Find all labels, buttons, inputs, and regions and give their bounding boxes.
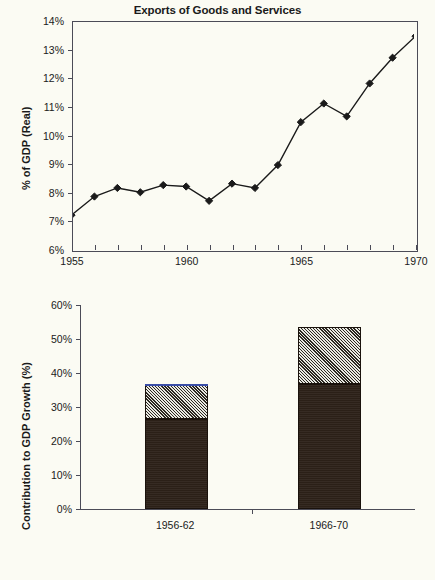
- bar-chart-y-tick-label: 20%: [32, 436, 72, 446]
- line-chart-y-tick-label: 6%: [24, 245, 64, 255]
- bar-segment-exports: [145, 385, 208, 420]
- bar-chart-y-tick-label: 40%: [32, 368, 72, 378]
- line-chart-series: [73, 22, 414, 248]
- line-chart-y-tick-label: 9%: [24, 159, 64, 169]
- line-chart-x-tick-mark: [187, 245, 188, 250]
- stacked-bar: [145, 305, 208, 509]
- bar-chart-y-tick-label: 50%: [32, 334, 72, 344]
- line-chart-figure: Exports of Goods and Services % of GDP (…: [0, 0, 435, 290]
- line-chart-x-tick-label: 1970: [386, 255, 435, 267]
- line-chart-x-tick-mark: [416, 245, 417, 250]
- line-chart-y-axis-label: % of GDP (Real): [20, 106, 32, 190]
- bar-segment-investment: [298, 384, 361, 509]
- stacked-bar: [298, 305, 361, 509]
- line-chart-x-tick-mark: [118, 245, 119, 250]
- line-chart-plot-area: [72, 21, 418, 252]
- bar-chart-axis-divider: [252, 509, 253, 514]
- line-chart-data-point: [114, 184, 121, 191]
- line-chart-x-tick-mark: [210, 245, 211, 250]
- line-chart-y-tick-label: 14%: [24, 16, 64, 26]
- line-chart-x-tick-mark: [72, 245, 73, 250]
- line-chart-x-tick-mark: [278, 245, 279, 250]
- bar-chart-category-label: 1956-62: [115, 519, 235, 531]
- line-chart-x-tick-mark: [233, 245, 234, 250]
- bar-chart-y-tick-label: 30%: [32, 402, 72, 412]
- line-chart-x-tick-mark: [164, 245, 165, 250]
- bar-chart-plot-area: [80, 305, 415, 510]
- bar-segment-investment: [145, 419, 208, 509]
- line-chart-data-point: [137, 189, 144, 196]
- line-chart-x-tick-label: 1965: [271, 255, 331, 267]
- bar-top-accent: [145, 384, 208, 386]
- bar-chart-y-axis-label: Contribution to GDP Growth (%): [20, 362, 32, 530]
- line-chart-path: [73, 36, 414, 215]
- line-chart-data-point: [183, 183, 190, 190]
- bar-chart-figure: Contribution to GDP Growth (%) 60%50%40%…: [0, 290, 435, 580]
- line-chart-y-tick-label: 13%: [24, 45, 64, 55]
- bar-chart-y-tick-label: 60%: [32, 300, 72, 310]
- line-chart-x-tick-mark: [347, 245, 348, 250]
- line-chart-x-tick-mark: [324, 245, 325, 250]
- line-chart-x-tick-mark: [301, 245, 302, 250]
- line-chart-x-tick-mark: [370, 245, 371, 250]
- line-chart-y-tick-label: 12%: [24, 73, 64, 83]
- bar-chart-y-tick-label: 0%: [32, 504, 72, 514]
- bar-chart-category-label: 1966-70: [269, 519, 389, 531]
- line-chart-x-tick-mark: [393, 245, 394, 250]
- page-title: Exports of Goods and Services: [0, 4, 435, 16]
- line-chart-y-tick-label: 10%: [24, 131, 64, 141]
- line-chart-y-tick-label: 11%: [24, 102, 64, 112]
- bar-segment-exports: [298, 327, 361, 384]
- line-chart-x-tick-label: 1955: [42, 255, 102, 267]
- line-chart-x-tick-label: 1960: [157, 255, 217, 267]
- line-chart-x-tick-mark: [255, 245, 256, 250]
- bar-chart-y-tick-label: 10%: [32, 470, 72, 480]
- line-chart-data-point: [160, 181, 167, 188]
- line-chart-x-tick-mark: [95, 245, 96, 250]
- line-chart-x-tick-mark: [141, 245, 142, 250]
- line-chart-y-tick-label: 7%: [24, 216, 64, 226]
- line-chart-y-tick-label: 8%: [24, 188, 64, 198]
